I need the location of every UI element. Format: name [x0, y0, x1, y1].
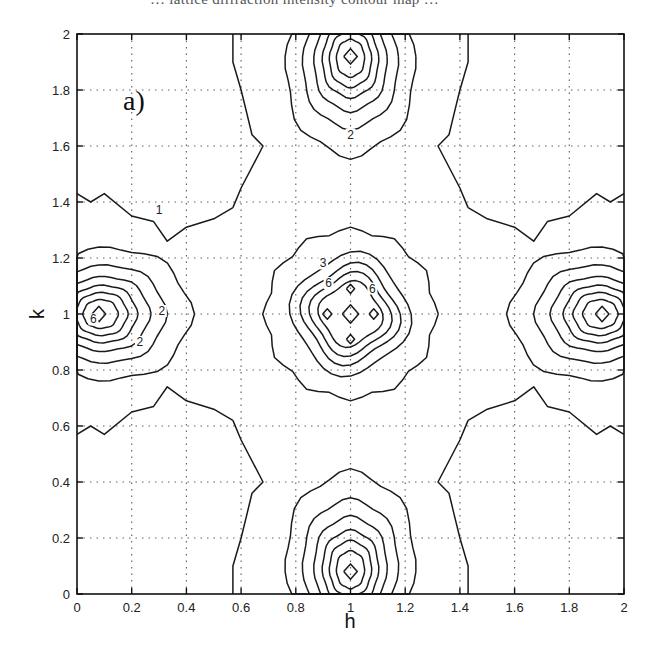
contour-edge-peak — [285, 469, 416, 594]
x-tick-label: 2 — [620, 600, 627, 615]
contour-edge-peak — [336, 39, 364, 77]
contour-level-1 — [233, 420, 263, 594]
y-axis-label: k — [26, 308, 48, 319]
contour-level-1 — [77, 194, 233, 242]
y-tick-label: 1.8 — [52, 83, 70, 98]
contour-label: 6 — [90, 312, 97, 326]
contour-level-1 — [468, 194, 624, 242]
x-tick-label: 1.4 — [451, 600, 469, 615]
x-tick-label: 1.8 — [560, 600, 578, 615]
contour-diamond — [344, 564, 358, 579]
contour-level-1 — [77, 387, 233, 435]
y-tick-label: 1.2 — [52, 251, 70, 266]
x-tick-label: 0.8 — [287, 600, 305, 615]
x-tick-label: 1.6 — [506, 600, 524, 615]
contour-label: 2 — [158, 304, 165, 318]
y-tick-label: 2 — [63, 27, 70, 42]
y-tick-label: 0.6 — [52, 419, 70, 434]
panel-label: a) — [123, 85, 145, 116]
contour-level-1 — [438, 420, 468, 594]
y-tick-label: 1.6 — [52, 139, 70, 154]
y-tick-label: 1.4 — [52, 195, 70, 210]
x-tick-label: 0.4 — [177, 600, 195, 615]
contour-label: 6 — [325, 276, 332, 290]
x-tick-label: 0.2 — [123, 600, 141, 615]
x-tick-label: 1.2 — [396, 600, 414, 615]
contour-label: 6 — [369, 282, 376, 296]
contour-edge-peak — [336, 551, 364, 589]
x-axis-label: h — [344, 610, 355, 632]
contour-diamond — [344, 49, 358, 64]
contour-labels: 21366622 — [88, 128, 377, 349]
y-tick-label: 0 — [63, 587, 70, 602]
contour-edge-peak — [83, 300, 119, 329]
contour-diamond — [346, 335, 354, 344]
x-tick-label: 0.6 — [232, 600, 250, 615]
contour-label: 1 — [156, 203, 163, 217]
y-tick-label: 0.2 — [52, 531, 70, 546]
contour-chart: 21366622 00.20.40.60.811.21.41.61.8200.2… — [0, 0, 654, 668]
y-tick-label: 0.8 — [52, 363, 70, 378]
contour-level-1 — [438, 34, 468, 208]
contour-label: 2 — [347, 128, 354, 142]
contour-level-1 — [233, 34, 263, 208]
contour-level-1 — [468, 387, 624, 435]
y-tick-label: 0.4 — [52, 475, 70, 490]
contour-edge-peak — [583, 300, 619, 329]
x-tick-label: 0 — [73, 600, 80, 615]
contour-label: 2 — [137, 335, 144, 349]
contour-label: 3 — [320, 256, 327, 270]
y-tick-label: 1 — [63, 307, 70, 322]
